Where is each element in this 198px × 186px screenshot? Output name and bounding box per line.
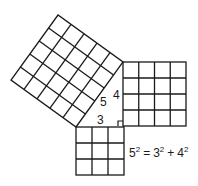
horizontal-leg-square-outline (76, 127, 124, 175)
hypotenuse-label: 5 (100, 95, 107, 109)
pythagorean-equation: 52=32+42 (129, 145, 189, 160)
horizontal-leg-label: 3 (97, 113, 104, 127)
right-angle-marker (118, 121, 123, 126)
vertical-leg-label: 4 (113, 88, 120, 102)
eq-exp-c: 2 (184, 145, 189, 154)
hypotenuse-square-outline (11, 15, 123, 127)
eq-equals: = (143, 146, 150, 160)
eq-exp-b: 2 (160, 145, 165, 154)
hypotenuse-square (11, 15, 123, 127)
horizontal-leg-square (76, 127, 124, 175)
eq-plus: + (167, 146, 174, 160)
vertical-leg-square (123, 62, 186, 126)
pythagoras-diagram: 5 4 3 52=32+42 (0, 0, 198, 186)
eq-exp-a: 2 (136, 145, 141, 154)
